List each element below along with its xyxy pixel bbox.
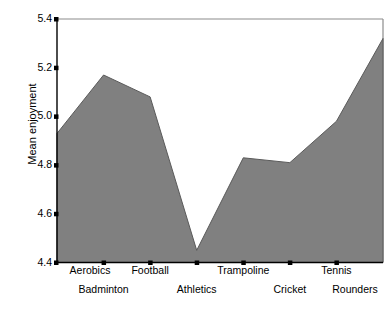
x-tick-label-aerobics: Aerobics bbox=[70, 264, 111, 276]
x-tick-mark bbox=[288, 261, 293, 266]
x-tick-mark bbox=[195, 261, 200, 266]
y-tick-mark bbox=[54, 163, 59, 168]
x-tick-label-cricket: Cricket bbox=[274, 283, 307, 295]
x-tick-label-football: Football bbox=[131, 264, 168, 276]
area-series-mean-enjoyment bbox=[57, 38, 383, 262]
x-tick-label-athletics: Athletics bbox=[177, 283, 217, 295]
chart-container: Mean enjoyment 5.45.25.04.84.64.4 Aerobi… bbox=[0, 0, 392, 313]
x-tick-label-badminton: Badminton bbox=[78, 283, 128, 295]
x-tick-label-tennis: Tennis bbox=[321, 264, 351, 276]
y-tick-mark bbox=[54, 261, 59, 266]
y-tick-mark bbox=[54, 212, 59, 217]
x-tick-label-trampoline: Trampoline bbox=[217, 264, 269, 276]
x-tick-label-rounders: Rounders bbox=[332, 283, 378, 295]
y-tick-mark bbox=[54, 17, 59, 22]
y-tick-mark bbox=[54, 66, 59, 71]
y-tick-mark bbox=[54, 114, 59, 119]
